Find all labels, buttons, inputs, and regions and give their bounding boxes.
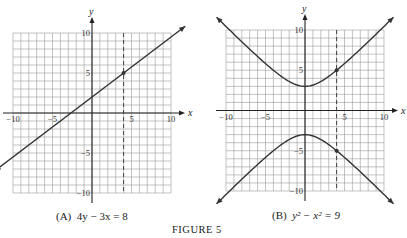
x-tick-label: −10 (219, 112, 232, 122)
highlight-point (335, 68, 339, 72)
y-tick-label: 5 (86, 68, 90, 78)
y-axis-arrow-icon (303, 14, 308, 20)
y-axis-label: y (301, 3, 307, 14)
caption-b-equation: y² − x² = 9 (292, 209, 340, 221)
x-axis-label: x (187, 107, 193, 118)
figure-label: FIGURE 5 (172, 224, 222, 235)
caption-a-prefix: (A) (56, 210, 71, 222)
x-axis-label: x (400, 105, 406, 116)
x-tick-label: −10 (6, 114, 19, 124)
plot-a: xy−10−5510105−5−10 (0, 6, 193, 203)
axes-a (3, 19, 183, 203)
x-tick-label: 10 (380, 112, 389, 122)
x-tick-label: −5 (261, 112, 270, 122)
y-tick-label: −5 (81, 148, 90, 158)
y-tick-label: 5 (299, 65, 303, 75)
y-tick-label: 10 (295, 25, 304, 35)
x-tick-label: −5 (48, 114, 57, 124)
x-axis-arrow-icon (179, 111, 185, 116)
caption-b: (B) y² − x² = 9 (272, 209, 340, 221)
x-tick-label: 5 (129, 114, 133, 124)
y-tick-label: −10 (77, 188, 90, 198)
y-axis-label: y (88, 6, 94, 17)
figure-canvas: xy−10−5510105−5−10xy−10−5510105−5−10 (0, 0, 407, 238)
highlight-point (122, 71, 126, 75)
plot-b: xy−10−5510105−5−10 (216, 3, 406, 204)
y-axis-arrow-icon (90, 17, 95, 23)
line-4y-3x-8 (0, 26, 185, 171)
highlight-point (335, 149, 339, 153)
y-tick-label: −10 (290, 186, 303, 196)
caption-a: (A) 4y − 3x = 8 (56, 210, 128, 222)
y-tick-label: 10 (82, 28, 91, 38)
x-tick-label: 10 (167, 114, 176, 124)
x-tick-label: 5 (342, 112, 346, 122)
y-tick-label: −5 (294, 146, 303, 156)
caption-a-equation: 4y − 3x = 8 (77, 210, 128, 222)
caption-b-prefix: (B) (272, 209, 287, 221)
x-axis-arrow-icon (392, 108, 398, 113)
